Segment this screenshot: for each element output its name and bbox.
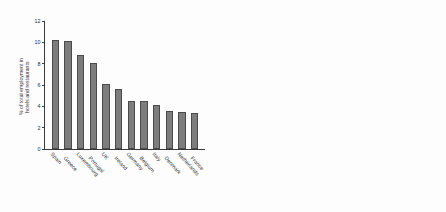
- bar: [178, 112, 186, 149]
- x-tick-label: UK: [101, 151, 110, 161]
- bar: [102, 84, 110, 149]
- chart-panel-hotels-restaurants: % of total employment in hotels and rest…: [0, 0, 223, 212]
- bar: [166, 111, 174, 149]
- y-tick-label: 6: [38, 82, 43, 88]
- bar-slot: [163, 21, 176, 149]
- x-label-slot: UK: [100, 149, 113, 209]
- y-tick-label: 4: [38, 103, 43, 109]
- bar-slot: [87, 21, 100, 149]
- y-tick-label: 10: [35, 39, 43, 45]
- bar-slot: [138, 21, 151, 149]
- x-tick-label: France: [189, 155, 205, 171]
- bar: [153, 105, 161, 149]
- bar: [90, 63, 98, 149]
- x-tick-label: Italy: [151, 151, 162, 162]
- bar: [128, 101, 136, 149]
- bar: [64, 41, 72, 149]
- x-label-slot: Portugal: [87, 149, 100, 209]
- bar: [191, 113, 199, 149]
- bar: [77, 55, 85, 149]
- x-axis-labels-left: SpainGreeceLuxembourgPortugalUKIrelandGe…: [45, 149, 205, 209]
- bar: [140, 101, 148, 149]
- x-label-slot: Luxembourg: [74, 149, 87, 209]
- bars-left: [45, 21, 205, 149]
- y-tick-label: 12: [35, 18, 43, 24]
- x-label-slot: Italy: [150, 149, 163, 209]
- x-label-slot: Denmark: [163, 149, 176, 209]
- bar-slot: [125, 21, 138, 149]
- figure-container: % of total employment in hotels and rest…: [0, 0, 446, 212]
- bar-slot: [176, 21, 189, 149]
- y-tick-label: 0: [38, 146, 43, 152]
- bar: [52, 40, 60, 149]
- bar: [115, 89, 123, 149]
- bar-slot: [49, 21, 62, 149]
- x-label-slot: France: [188, 149, 201, 209]
- bar-slot: [100, 21, 113, 149]
- x-label-slot: Greece: [62, 149, 75, 209]
- bar-slot: [62, 21, 75, 149]
- x-label-slot: Ireland: [112, 149, 125, 209]
- y-tick-label: 8: [38, 60, 43, 66]
- x-label-slot: Belgium: [138, 149, 151, 209]
- chart-panel-tourism-employment: % of total workforce estimated in touris…: [223, 0, 446, 212]
- x-label-slot: Spain: [49, 149, 62, 209]
- bar-slot: [150, 21, 163, 149]
- x-label-slot: Netherlands: [176, 149, 189, 209]
- bar-slot: [188, 21, 201, 149]
- bar-slot: [74, 21, 87, 149]
- x-label-slot: Germany: [125, 149, 138, 209]
- plot-area-left: 024681012 SpainGreeceLuxembourgPortugalU…: [44, 21, 205, 150]
- y-axis-label: % of total employment in hotels and rest…: [18, 28, 32, 146]
- y-tick-label: 2: [38, 124, 43, 130]
- bar-slot: [112, 21, 125, 149]
